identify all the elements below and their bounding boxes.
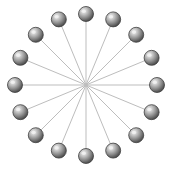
node-sphere[interactable] [144, 50, 159, 65]
node-highlight [109, 146, 114, 150]
node-highlight [132, 131, 137, 135]
node-sphere[interactable] [51, 12, 66, 27]
graph-node[interactable] [8, 78, 23, 93]
node-sphere[interactable] [129, 128, 144, 143]
node-highlight [16, 53, 21, 57]
node-sphere[interactable] [51, 143, 66, 158]
graph-node[interactable] [28, 27, 43, 42]
node-sphere[interactable] [129, 27, 144, 42]
node-highlight [54, 146, 59, 150]
node-sphere[interactable] [13, 105, 28, 120]
graph-node[interactable] [129, 27, 144, 42]
node-highlight [147, 53, 152, 57]
node-sphere[interactable] [106, 143, 121, 158]
node-sphere[interactable] [79, 7, 94, 22]
graph-node[interactable] [106, 12, 121, 27]
graph-node[interactable] [150, 78, 165, 93]
star-graph-figure [0, 0, 174, 172]
graph-edge [86, 85, 132, 131]
graph-canvas [0, 0, 174, 172]
node-sphere[interactable] [28, 128, 43, 143]
node-highlight [132, 30, 137, 34]
node-highlight [109, 15, 114, 19]
node-highlight [31, 30, 36, 34]
node-sphere[interactable] [150, 78, 165, 93]
graph-node[interactable] [13, 105, 28, 120]
node-highlight [147, 108, 152, 112]
graph-node[interactable] [13, 50, 28, 65]
graph-node[interactable] [51, 12, 66, 27]
graph-node[interactable] [144, 50, 159, 65]
graph-edge [40, 39, 86, 85]
node-highlight [54, 15, 59, 19]
node-sphere[interactable] [106, 12, 121, 27]
node-sphere[interactable] [28, 27, 43, 42]
graph-node[interactable] [79, 149, 94, 164]
node-sphere[interactable] [144, 105, 159, 120]
node-sphere[interactable] [13, 50, 28, 65]
node-highlight [82, 10, 87, 14]
node-highlight [11, 81, 16, 85]
graph-node[interactable] [144, 105, 159, 120]
graph-edge [86, 39, 132, 85]
node-sphere[interactable] [79, 149, 94, 164]
node-highlight [31, 131, 36, 135]
node-highlight [153, 81, 158, 85]
node-highlight [16, 108, 21, 112]
node-highlight [82, 152, 87, 156]
node-sphere[interactable] [8, 78, 23, 93]
graph-edge [40, 85, 86, 131]
graph-node[interactable] [79, 7, 94, 22]
graph-node[interactable] [106, 143, 121, 158]
graph-node[interactable] [129, 128, 144, 143]
graph-node[interactable] [51, 143, 66, 158]
graph-node[interactable] [28, 128, 43, 143]
